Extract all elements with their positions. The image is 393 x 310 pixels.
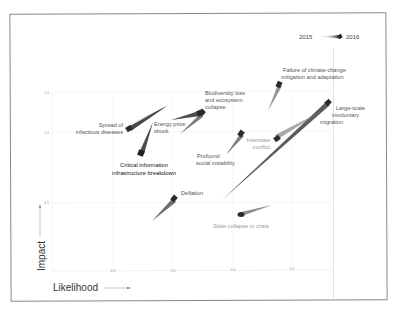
legend: 2015 2016: [299, 34, 360, 40]
svg-text:Profound: Profound: [197, 153, 220, 159]
svg-text:Critical information: Critical information: [120, 162, 168, 168]
legend-2016: 2016: [346, 34, 360, 40]
legend-2015: 2015: [299, 34, 313, 40]
svg-text:Large-scale: Large-scale: [336, 105, 365, 111]
svg-text:Deflation: Deflation: [181, 190, 203, 196]
svg-text:and ecosystem: and ecosystem: [205, 97, 243, 103]
annotation-climate-change-failure: Failure of climate-change mitigation and…: [281, 67, 346, 80]
y-axis-ticks: 5.5 5.0 4.5: [44, 91, 49, 205]
trail-profound-social-instability: [226, 130, 245, 155]
trail-climate-change-failure: [268, 81, 283, 111]
annotation-critical-information-infrastructure: Critical information infrastructure brea…: [112, 162, 176, 176]
y-tick: 4.5: [44, 201, 49, 205]
y-axis-arrowhead-icon: [39, 204, 41, 208]
x-axis-title: Likelihood: [53, 282, 98, 293]
svg-text:infrastructure breakdown: infrastructure breakdown: [112, 170, 176, 176]
trail-deflation: [152, 195, 178, 221]
annotation-profound-social-instability: Profound social instability: [196, 153, 235, 166]
annotation-deflation: Deflation: [181, 190, 203, 196]
x-axis-arrowhead-icon: [127, 287, 131, 289]
annotation-spread-of-infectious-diseases: Spread of infectious diseases: [76, 122, 124, 135]
trail-critical-information-infrastructure: [137, 122, 153, 157]
svg-text:Spread of: Spread of: [99, 122, 124, 128]
trail-large-scale-migration: [222, 99, 332, 200]
svg-text:Biodiversity loss: Biodiversity loss: [205, 90, 245, 96]
svg-text:Energy price: Energy price: [154, 121, 185, 127]
svg-text:Failure of climate-change: Failure of climate-change: [283, 67, 346, 73]
x-tick: 5.5: [290, 267, 295, 271]
annotation-biodiversity-loss: Biodiversity loss and ecosystem collapse: [205, 90, 245, 110]
grid: [52, 91, 333, 271]
svg-text:Interstate: Interstate: [247, 137, 270, 143]
risk-trend-chart: 5.5 5.0 4.5 4.0 4.5 5.0 5.5 Impact Likel…: [0, 0, 393, 310]
svg-text:shock: shock: [154, 128, 169, 134]
x-tick: 4.0: [111, 269, 116, 273]
trail-state-collapse: [238, 205, 273, 217]
legend-trail: [318, 35, 340, 39]
x-tick: 5.0: [231, 268, 236, 272]
legend-marker-icon: [337, 34, 342, 39]
annotation-large-scale-migration: Large-scale involuntary migration: [320, 105, 365, 125]
svg-text:collapse: collapse: [205, 104, 226, 110]
annotation-interstate-conflict: Interstate conflict: [247, 137, 271, 150]
x-tick: 4.5: [171, 269, 176, 273]
svg-text:social instability: social instability: [196, 160, 235, 166]
y-tick: 5.5: [44, 91, 49, 95]
svg-text:conflict: conflict: [253, 144, 271, 150]
y-tick: 5.0: [44, 131, 49, 135]
annotation-energy-price-shock: Energy price shock: [154, 121, 185, 134]
svg-text:involuntary: involuntary: [332, 112, 359, 118]
y-axis-title: Impact: [36, 241, 47, 271]
svg-text:infectious diseases: infectious diseases: [76, 129, 123, 135]
svg-text:State collapse or crisis: State collapse or crisis: [213, 223, 269, 229]
svg-text:mitigation and adaptation: mitigation and adaptation: [281, 74, 344, 80]
svg-text:migration: migration: [320, 119, 343, 125]
annotation-state-collapse: State collapse or crisis: [213, 223, 269, 229]
